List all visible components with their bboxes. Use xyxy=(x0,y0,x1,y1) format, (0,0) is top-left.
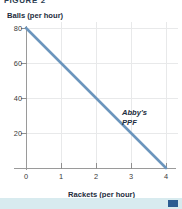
ppf-line-series xyxy=(26,28,166,168)
ppf-annotation: Abby's PPF xyxy=(122,108,147,128)
ppf-annotation-line2: PPF xyxy=(122,118,147,128)
bottom-decorative-band xyxy=(0,198,182,209)
figure-panel: FIGURE 2 Balls (per hour) Rackets (per h… xyxy=(0,0,182,209)
ppf-line-svg xyxy=(0,0,182,209)
ppf-annotation-line1: Abby's xyxy=(122,108,147,118)
bottom-corner-marker xyxy=(168,200,178,207)
